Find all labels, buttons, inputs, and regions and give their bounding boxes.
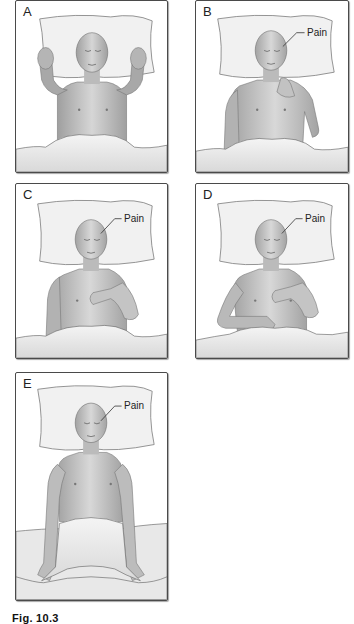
panel-letter: B <box>203 4 212 19</box>
patient-illustration-arms-at-sides <box>16 373 167 600</box>
panel-letter: C <box>23 187 32 202</box>
pain-label: Pain <box>305 213 325 224</box>
panel-letter: A <box>23 4 32 19</box>
pain-label: Pain <box>124 400 144 411</box>
blanket <box>196 138 348 171</box>
patient-illustration-both-hands-raised <box>16 1 167 172</box>
pain-label: Pain <box>307 27 327 38</box>
figure-panel-a: A <box>15 0 168 173</box>
patient-illustration-hand-on-chest <box>16 184 167 358</box>
pain-label: Pain <box>124 213 144 224</box>
blanket <box>196 327 348 358</box>
panel-letter: D <box>203 187 212 202</box>
patient-illustration-gripping-blanket <box>196 184 348 358</box>
panel-letter: E <box>23 376 32 391</box>
blanket <box>16 135 167 172</box>
figure-panel-e: E Pain <box>15 372 168 601</box>
figure-caption: Fig. 10.3 <box>12 612 59 624</box>
figure-panel-b: B Pain <box>195 0 349 173</box>
blanket <box>16 325 167 357</box>
figure-panel-d: D Pain <box>195 183 349 359</box>
figure-panel-c: C Pain <box>15 183 168 359</box>
